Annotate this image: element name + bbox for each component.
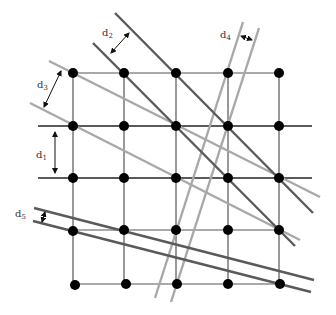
label-d1: d1 [36,149,47,162]
node [121,279,131,289]
d5-arrow [42,212,45,222]
node [171,173,181,183]
node [172,279,182,289]
node [68,173,78,183]
node [223,68,233,78]
node [274,121,284,131]
node [68,121,78,131]
node [171,68,181,78]
label-d2: d2 [102,27,113,40]
node [68,68,78,78]
node [119,173,129,183]
d2-arrow [111,33,129,53]
label-d5: d5 [15,208,26,221]
d5-lines [33,208,314,292]
lattice-line-diagram: d1 d2 d3 d4 d5 [0,0,336,315]
node [223,173,233,183]
node [223,121,233,131]
node [274,225,284,235]
node [274,68,284,78]
node [223,279,233,289]
node [275,279,285,289]
node [119,225,129,235]
node [70,280,80,290]
node [223,225,233,235]
node [68,226,78,236]
node [119,121,129,131]
node [274,173,284,183]
d4-lines [155,22,259,302]
label-d3: d3 [37,79,48,92]
label-d4: d4 [220,29,231,42]
node [171,121,181,131]
node [119,68,129,78]
node [171,225,181,235]
d4-arrow [241,36,252,40]
